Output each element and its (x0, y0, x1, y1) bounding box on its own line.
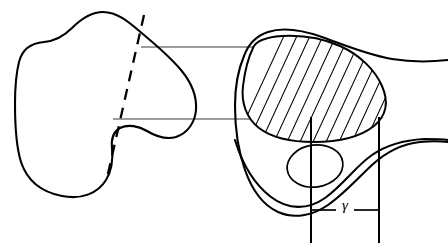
cut-plane-dashed-line (107, 15, 144, 178)
small-ellipse-feature (284, 141, 345, 190)
hatch-line (385, 25, 445, 155)
figure-svg: γ (0, 0, 448, 246)
gamma-dimension-label: γ (342, 197, 349, 213)
left-outline-path (15, 12, 196, 197)
right-section-view (229, 25, 448, 216)
left-outline-view (15, 12, 196, 197)
figure-root: γ (0, 0, 448, 246)
